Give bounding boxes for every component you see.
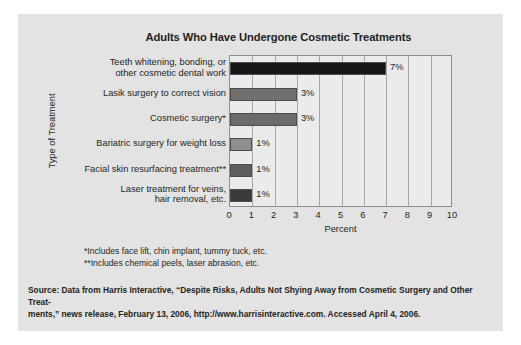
bar-value-label: 7% (390, 61, 403, 74)
x-tick-label: 3 (293, 210, 298, 220)
x-tick-label: 4 (316, 210, 321, 220)
bar (230, 62, 386, 75)
source-citation: Source: Data from Harris Interactive, “D… (28, 284, 494, 321)
x-tick-label: 7 (383, 210, 388, 220)
bar-value-label: 3% (301, 112, 314, 125)
bar-row: 7% (230, 62, 453, 75)
x-axis-title: Percent (229, 224, 452, 234)
x-tick-label: 0 (226, 210, 231, 220)
x-axis-ticks: 012345678910 (229, 210, 452, 224)
category-label: Bariatric surgery for weight loss (56, 138, 226, 149)
plot-area: 7%3%3%1%1%1% (229, 55, 452, 207)
x-tick-label: 1 (249, 210, 254, 220)
bar-value-label: 1% (256, 163, 269, 176)
x-tick-label: 2 (271, 210, 276, 220)
category-label: Teeth whitening, bonding, or other cosme… (56, 57, 226, 78)
x-tick-label: 6 (360, 210, 365, 220)
source-line-2: ments,” news release, February 13, 2006,… (28, 308, 494, 320)
bar-row: 3% (230, 88, 453, 101)
bar-value-label: 1% (256, 137, 269, 150)
bar-row: 1% (230, 189, 453, 202)
x-tick-label: 5 (338, 210, 343, 220)
source-line-1: Source: Data from Harris Interactive, “D… (28, 284, 494, 308)
category-label: Laser treatment for veins, hair removal,… (56, 184, 226, 205)
x-tick-label: 8 (405, 210, 410, 220)
bars-layer: 7%3%3%1%1%1% (230, 56, 451, 206)
bar (230, 138, 252, 151)
bar-row: 1% (230, 164, 453, 177)
footnote-1: *Includes face lift, chin implant, tummy… (84, 246, 267, 258)
bar-row: 3% (230, 113, 453, 126)
chart-title: Adults Who Have Undergone Cosmetic Treat… (18, 31, 503, 43)
category-label: Cosmetic surgery* (56, 113, 226, 124)
bar (230, 88, 297, 101)
x-tick-label: 9 (427, 210, 432, 220)
bar-row: 1% (230, 138, 453, 151)
bar-value-label: 3% (301, 87, 314, 100)
figure-panel: Adults Who Have Undergone Cosmetic Treat… (18, 14, 503, 331)
category-labels: Teeth whitening, bonding, or other cosme… (54, 55, 226, 207)
bar (230, 189, 252, 202)
bar-value-label: 1% (256, 188, 269, 201)
category-label: Facial skin resurfacing treatment** (56, 164, 226, 175)
footnotes: *Includes face lift, chin implant, tummy… (84, 246, 267, 269)
bar (230, 113, 297, 126)
bar (230, 164, 252, 177)
footnote-2: **Includes chemical peels, laser abrasio… (84, 258, 267, 270)
x-tick-label: 10 (447, 210, 457, 220)
category-label: Lasik surgery to correct vision (56, 88, 226, 99)
